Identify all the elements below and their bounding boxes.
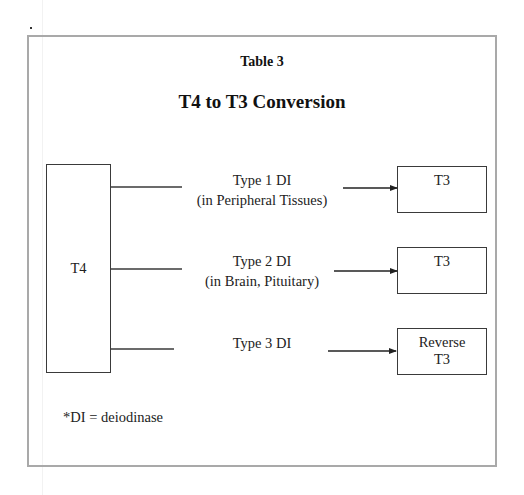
table-label: Table 3 [0, 54, 524, 70]
product-label-line1: Reverse [398, 334, 486, 351]
pathway-2-label: Type 2 DI (in Brain, Pituitary) [162, 251, 362, 291]
product-label-line2: T3 [398, 351, 486, 368]
diagram-title: T4 to T3 Conversion [0, 91, 524, 113]
enzyme-name: Type 1 DI [162, 170, 362, 190]
enzyme-location: (in Brain, Pituitary) [162, 271, 362, 291]
product-box-t3-1: T3 [397, 166, 487, 213]
product-label: T3 [398, 172, 486, 189]
t4-label: T4 [70, 260, 86, 277]
product-label: T3 [398, 253, 486, 270]
pathway-3-label: Type 3 DI [162, 333, 362, 353]
page-mark [30, 27, 32, 29]
enzyme-name: Type 2 DI [162, 251, 362, 271]
pathway-1-label: Type 1 DI (in Peripheral Tissues) [162, 170, 362, 210]
enzyme-name: Type 3 DI [162, 333, 362, 353]
product-box-reverse-t3: Reverse T3 [397, 328, 487, 375]
t4-source-box: T4 [46, 164, 111, 373]
enzyme-location: (in Peripheral Tissues) [162, 190, 362, 210]
footnote-deiodinase: *DI = deiodinase [63, 409, 163, 426]
product-box-t3-2: T3 [397, 247, 487, 294]
